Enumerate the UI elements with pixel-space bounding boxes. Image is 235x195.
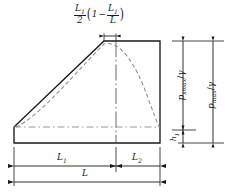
L1-label: L1: [57, 153, 67, 164]
h1-label: h1: [170, 125, 180, 149]
formula-ratio-fraction: L1 L: [107, 4, 119, 25]
pressure-distribution-figure: L1 2 ( 1 − L1 L ) psmax/γ pmax/γ h1 L1 L…: [0, 0, 235, 195]
solid-outline-group: [14, 41, 160, 143]
solid-outline-path: [14, 41, 160, 143]
formula-paren-close: ): [120, 7, 124, 22]
L2-label: L2: [132, 153, 142, 164]
figure-canvas: [0, 0, 235, 195]
formula-paren-open: (: [87, 7, 91, 22]
p-smax-label: psmax/γ: [177, 55, 188, 115]
formula-coefficient-fraction: L1 2: [74, 4, 86, 25]
top-formula-label: L1 2 ( 1 − L1 L ): [74, 4, 125, 25]
formula-minus: −: [97, 10, 107, 19]
L-label: L: [82, 169, 88, 180]
p-max-label: pmax/γ: [207, 65, 218, 125]
